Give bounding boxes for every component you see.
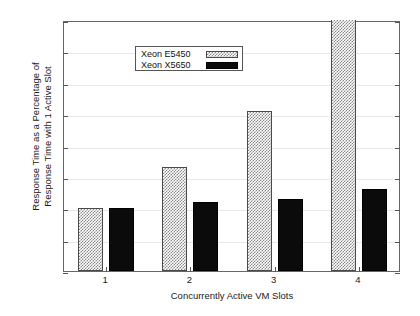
bar bbox=[331, 20, 356, 271]
y-axis-title: Response Time as a Percentage of Respons… bbox=[30, 22, 53, 252]
x-tick-label: 1 bbox=[85, 274, 125, 285]
legend-item-e5450: Xeon E5450 bbox=[141, 49, 238, 59]
y-tick-mark bbox=[63, 242, 68, 243]
y-tick-mark bbox=[395, 273, 400, 274]
bar bbox=[362, 189, 387, 271]
bar bbox=[278, 199, 303, 271]
x-tick-mark bbox=[359, 267, 360, 272]
y-tick-mark bbox=[63, 148, 68, 149]
x-tick-mark bbox=[106, 267, 107, 272]
bar bbox=[247, 111, 272, 271]
bar bbox=[78, 208, 103, 271]
y-tick-mark bbox=[63, 210, 68, 211]
x-axis-title: Concurrently Active VM Slots bbox=[62, 290, 402, 301]
legend-swatch-e5450 bbox=[206, 51, 238, 58]
y-axis-title-line-1: Response Time as a Percentage of bbox=[30, 22, 42, 252]
y-tick-mark bbox=[395, 53, 400, 54]
y-tick-mark bbox=[395, 179, 400, 180]
y-tick-mark bbox=[395, 242, 400, 243]
y-tick-mark bbox=[63, 53, 68, 54]
bar bbox=[109, 208, 134, 271]
y-tick-mark bbox=[63, 85, 68, 86]
plot-area: Xeon E5450 Xeon X5650 bbox=[63, 21, 400, 272]
y-tick-mark bbox=[395, 85, 400, 86]
legend-label-x5650: Xeon X5650 bbox=[141, 60, 191, 70]
bar bbox=[162, 167, 187, 271]
x-tick-label: 3 bbox=[254, 274, 294, 285]
x-tick-label: 2 bbox=[169, 274, 209, 285]
x-tick-mark bbox=[190, 267, 191, 272]
x-tick-label: 4 bbox=[338, 274, 378, 285]
legend-label-e5450: Xeon E5450 bbox=[141, 49, 191, 59]
y-axis-title-line-2: Response Time with 1 Active Slot bbox=[41, 22, 53, 252]
legend-item-x5650: Xeon X5650 bbox=[141, 60, 238, 70]
y-tick-mark bbox=[63, 22, 68, 23]
y-tick-mark bbox=[395, 116, 400, 117]
legend-swatch-x5650 bbox=[206, 62, 238, 69]
y-tick-mark bbox=[395, 210, 400, 211]
x-tick-mark bbox=[275, 267, 276, 272]
bar bbox=[193, 202, 218, 271]
y-tick-mark bbox=[63, 179, 68, 180]
bar-chart-figure: Response Time as a Percentage of Respons… bbox=[0, 0, 420, 316]
y-tick-mark bbox=[63, 273, 68, 274]
y-tick-mark bbox=[395, 148, 400, 149]
legend: Xeon E5450 Xeon X5650 bbox=[135, 46, 243, 71]
y-tick-mark bbox=[63, 116, 68, 117]
y-tick-mark bbox=[395, 22, 400, 23]
